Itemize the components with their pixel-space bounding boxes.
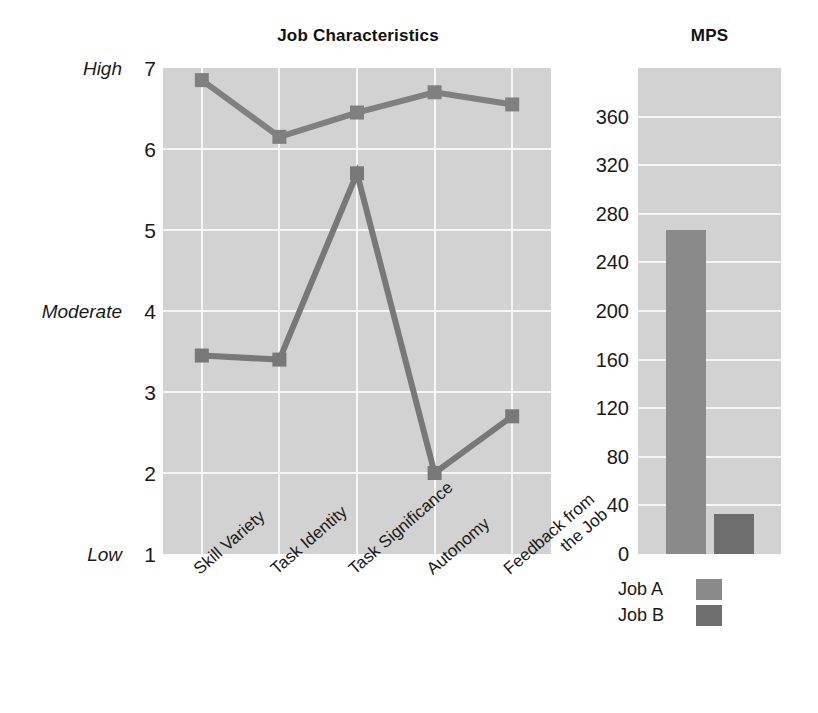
bar-chart-y-tick-label: 360	[573, 107, 629, 127]
line-series-job-b	[202, 173, 512, 473]
legend-color-swatch	[696, 605, 722, 626]
bar-job-a	[666, 230, 706, 554]
line-data-point-marker	[272, 353, 286, 367]
line-data-point-marker	[505, 97, 519, 111]
bar-job-b	[714, 514, 754, 554]
line-data-point-marker	[195, 349, 209, 363]
bar-chart-y-tick-label: 160	[573, 350, 629, 370]
line-data-point-marker	[428, 466, 442, 480]
line-chart-y-tick-label: 5	[128, 220, 156, 241]
bar-chart-y-tick-label: 40	[573, 495, 629, 515]
line-chart-y-tick-label: 2	[128, 463, 156, 484]
y-anchor-label-low: Low	[12, 545, 122, 564]
line-chart-series-layer	[163, 68, 551, 554]
gridline-horizontal	[638, 359, 781, 361]
bar-chart-title: MPS	[638, 26, 781, 46]
y-anchor-label-moderate: Moderate	[12, 302, 122, 321]
line-data-point-marker	[350, 166, 364, 180]
line-data-point-marker	[428, 85, 442, 99]
gridline-horizontal	[638, 456, 781, 458]
bar-chart-y-tick-label: 80	[573, 447, 629, 467]
bar-chart-y-tick-label: 200	[573, 301, 629, 321]
line-chart-y-tick-label: 3	[128, 382, 156, 403]
line-data-point-marker	[350, 106, 364, 120]
line-chart-y-tick-label: 1	[128, 544, 156, 565]
y-anchor-label-high: High	[12, 59, 122, 78]
bar-chart-y-tick-label: 120	[573, 398, 629, 418]
line-chart-y-tick-label: 7	[128, 58, 156, 79]
line-data-point-marker	[195, 73, 209, 87]
legend-color-swatch	[696, 579, 722, 600]
gridline-horizontal	[638, 213, 781, 215]
line-chart-title: Job Characteristics	[163, 26, 553, 46]
bar-chart-y-tick-label: 280	[573, 204, 629, 224]
legend-item-label: Job A	[618, 579, 682, 600]
figure-canvas: Job Characteristics MPS 1Low234Moderate5…	[0, 0, 818, 713]
line-data-point-marker	[505, 409, 519, 423]
gridline-horizontal	[638, 310, 781, 312]
gridline-horizontal	[638, 407, 781, 409]
line-data-point-marker	[272, 130, 286, 144]
bar-chart-y-tick-label: 0	[573, 544, 629, 564]
gridline-horizontal	[638, 504, 781, 506]
legend: Job AJob B	[618, 576, 798, 628]
legend-item-label: Job B	[618, 605, 682, 626]
line-chart-y-tick-label: 4	[128, 301, 156, 322]
gridline-horizontal	[638, 261, 781, 263]
gridline-horizontal	[638, 116, 781, 118]
legend-item[interactable]: Job A	[618, 576, 798, 602]
legend-item[interactable]: Job B	[618, 602, 798, 628]
bar-chart-y-tick-label: 240	[573, 252, 629, 272]
gridline-horizontal	[638, 164, 781, 166]
bar-chart-y-tick-label: 320	[573, 155, 629, 175]
line-chart-y-tick-label: 6	[128, 139, 156, 160]
bar-chart-plot-area	[638, 68, 781, 554]
